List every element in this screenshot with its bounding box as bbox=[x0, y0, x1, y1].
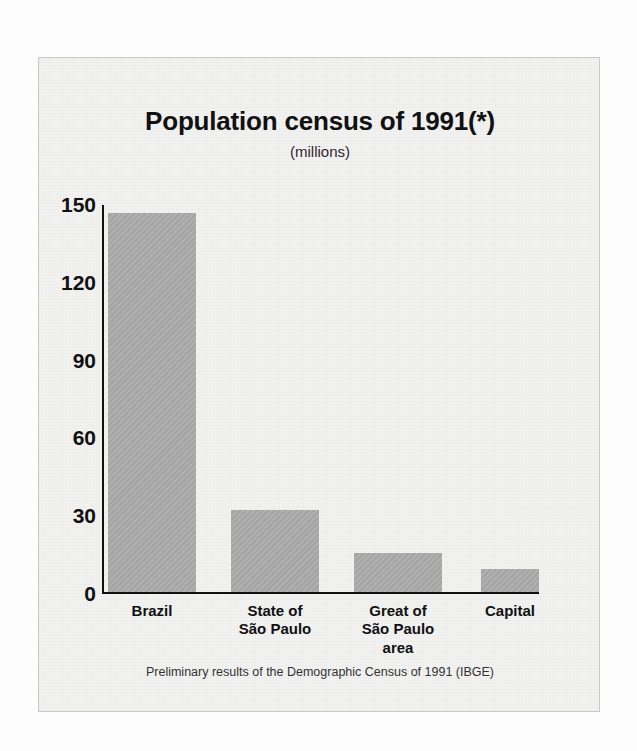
bar-capital bbox=[481, 569, 539, 592]
y-axis-line bbox=[102, 205, 104, 594]
x-category-label-brazil: Brazil bbox=[132, 602, 173, 620]
y-tick-label-150: 150 bbox=[61, 193, 96, 217]
bar-great-sao-paulo-area bbox=[354, 553, 442, 592]
chart-subtitle: (millions) bbox=[39, 143, 601, 160]
x-category-label-capital: Capital bbox=[485, 602, 535, 620]
y-tick-label-30: 30 bbox=[73, 504, 96, 528]
chart-panel: Population census of 1991(*) (millions) … bbox=[38, 57, 600, 712]
y-tick-label-120: 120 bbox=[61, 271, 96, 295]
y-tick-label-60: 60 bbox=[73, 426, 96, 450]
y-tick-label-0: 0 bbox=[84, 582, 96, 606]
bar-brazil bbox=[108, 213, 196, 592]
chart-footnote: Preliminary results of the Demographic C… bbox=[39, 665, 601, 679]
bar-state-of-sao-paulo bbox=[231, 510, 319, 592]
x-axis-line bbox=[102, 592, 539, 594]
x-category-label-state-of-sao-paulo: State of São Paulo bbox=[239, 602, 312, 639]
y-tick-label-90: 90 bbox=[73, 349, 96, 373]
x-category-label-great-sao-paulo-area: Great of São Paulo area bbox=[362, 602, 435, 657]
plot-area: 0 30 60 90 120 150 Brazil State of São P… bbox=[102, 205, 539, 594]
chart-title: Population census of 1991(*) bbox=[39, 106, 601, 137]
scanned-page: Population census of 1991(*) (millions) … bbox=[0, 0, 637, 751]
